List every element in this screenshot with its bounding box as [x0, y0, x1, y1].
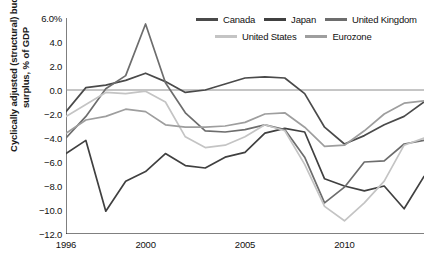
y-tick-label: −4.0 [44, 133, 62, 144]
x-tick-label: 2010 [334, 239, 354, 250]
chart-legend: Canada Japan United Kingdom United State… [196, 11, 432, 45]
plot-area [66, 18, 424, 234]
y-tick-label: −6.0 [44, 157, 62, 168]
legend-swatch-united-kingdom [325, 18, 347, 20]
legend-swatch-canada [196, 18, 218, 20]
plot-svg [66, 18, 424, 234]
legend-label-canada: Canada [223, 14, 255, 25]
data-series-lines [66, 24, 424, 221]
legend-label-eurozone: Eurozone [332, 31, 371, 42]
legend-label-united-states: United States [242, 31, 296, 42]
x-tick-label: 1996 [56, 239, 76, 250]
y-tick-label: −2.0 [44, 109, 62, 120]
legend-item-united-kingdom[interactable]: United Kingdom [325, 14, 417, 25]
y-tick-label: −12.0 [39, 229, 62, 240]
legend-row-1: Canada Japan United Kingdom [196, 11, 432, 28]
legend-label-japan: Japan [291, 14, 316, 25]
legend-swatch-japan [264, 18, 286, 20]
y-tick-label: −8.0 [44, 181, 62, 192]
legend-item-canada[interactable]: Canada [196, 14, 255, 25]
legend-item-eurozone[interactable]: Eurozone [305, 31, 371, 42]
legend-item-japan[interactable]: Japan [264, 14, 316, 25]
legend-label-united-kingdom: United Kingdom [352, 14, 417, 25]
x-tick-label: 2000 [135, 239, 155, 250]
y-tick-label: 2.0 [49, 61, 62, 72]
y-tick-label: 6.0% [41, 13, 62, 24]
y-axis-tick-labels: 6.0%4.02.00.0−2.0−4.0−6.0−8.0−10.0−12.0 [0, 0, 62, 273]
x-axis-tick-labels: 1996200020052010 [0, 239, 432, 257]
y-tick-label: 4.0 [49, 37, 62, 48]
legend-row-2: United States Eurozone [196, 28, 432, 45]
chart-container: Cyclically adjusted (structural) budget … [0, 0, 432, 273]
x-tick-label: 2005 [235, 239, 255, 250]
y-tick-label: 0.0 [49, 85, 62, 96]
legend-swatch-united-states [215, 35, 237, 37]
y-tick-label: −10.0 [39, 205, 62, 216]
legend-swatch-eurozone [305, 35, 327, 37]
legend-item-united-states[interactable]: United States [215, 31, 296, 42]
